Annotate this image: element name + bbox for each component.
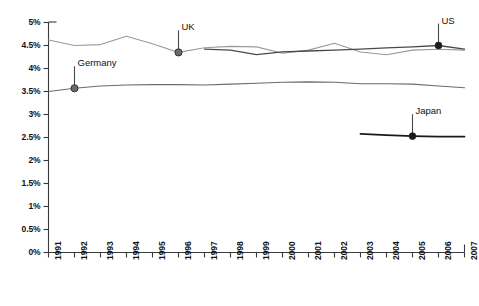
x-axis-tick-label: 1998 [235, 241, 245, 260]
x-axis-tick-label: 2002 [339, 241, 349, 260]
x-axis-tick-label: 1996 [183, 241, 193, 260]
y-axis-tick-label: 0.5% [22, 224, 41, 234]
x-axis-tick-label: 2000 [287, 241, 297, 260]
y-axis-tick-label: 0% [28, 247, 40, 257]
series-label-germany: Germany [78, 57, 117, 68]
x-axis-tick-label: 2001 [313, 241, 323, 260]
series-label-japan: Japan [416, 105, 442, 116]
data-point-marker-japan [409, 133, 416, 140]
series-layer [49, 36, 465, 136]
y-axis-tick-label: 1% [28, 201, 40, 211]
data-point-marker-us [435, 42, 442, 49]
x-axis-tick-label: 1995 [157, 241, 167, 260]
y-axis-tick-label: 2% [28, 155, 40, 165]
x-axis-tick-label: 1993 [105, 241, 115, 260]
series-label-us: US [442, 15, 455, 26]
y-axis-tick-label: 4% [28, 63, 40, 73]
y-axis-tick-label: 3.5% [22, 86, 41, 96]
x-axis-tick-label: 1997 [209, 241, 219, 260]
data-point-marker-germany [71, 85, 78, 92]
y-axis-tick-label: 2.5% [22, 132, 41, 142]
annotation-layer [71, 24, 442, 140]
data-point-marker-uk [175, 49, 182, 56]
x-axis-tick-label: 1999 [261, 241, 271, 260]
y-axis-tick-label: 4.5% [22, 40, 41, 50]
x-axis-tick-label: 2006 [443, 241, 453, 260]
y-axis-tick-label: 1.5% [22, 178, 41, 188]
series-line-uk [49, 36, 465, 54]
x-axis-tick-label: 1994 [131, 241, 141, 260]
x-axis-tick-label: 1992 [79, 241, 89, 260]
series-label-uk: UK [182, 21, 195, 32]
x-axis-tick-label: 2005 [417, 241, 427, 260]
x-axis-tick-label: 2007 [469, 241, 479, 260]
x-axis-tick-label: 1991 [53, 241, 63, 260]
x-axis-tick-label: 2004 [391, 241, 401, 260]
x-axis-tick-label: 2003 [365, 241, 375, 260]
y-axis-tick-label: 3% [28, 109, 40, 119]
series-line-germany [49, 82, 465, 92]
y-axis-tick-label: 5% [28, 17, 40, 27]
